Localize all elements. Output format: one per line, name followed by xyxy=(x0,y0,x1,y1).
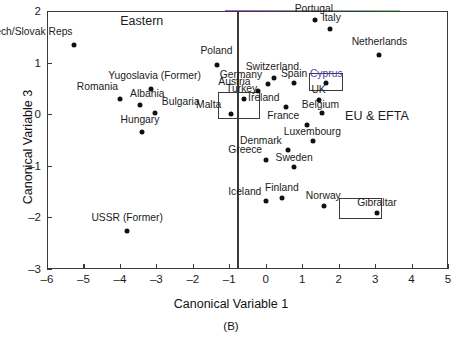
figure-caption: (B) xyxy=(223,320,238,332)
data-point-label: Czech/Slovak Reps xyxy=(0,27,73,37)
data-point-label: Bulgaria xyxy=(162,97,200,107)
data-point-marker xyxy=(264,198,269,203)
y-axis-title: Canonical Variable 3 xyxy=(21,67,35,227)
x-tick-label: –6 xyxy=(41,273,54,285)
data-point-label: Sweden xyxy=(276,153,313,163)
data-point-marker xyxy=(374,211,379,216)
data-point-marker xyxy=(311,139,316,144)
x-tick xyxy=(339,264,340,269)
data-point-marker xyxy=(271,76,276,81)
data-point-marker xyxy=(292,164,297,169)
x-tick-label: –3 xyxy=(150,273,163,285)
x-tick xyxy=(375,264,376,269)
canonical-variate-scatter-figure: –6–5–4–3–2–1012345 210–1–2–3 Czech/Slova… xyxy=(0,0,463,337)
data-point-marker xyxy=(319,111,324,116)
y-tick xyxy=(47,269,52,270)
x-tick-label: 3 xyxy=(372,273,378,285)
y-tick xyxy=(47,217,52,218)
data-point-label: Italy xyxy=(322,13,341,23)
data-point-marker xyxy=(125,229,130,234)
x-tick xyxy=(266,264,267,269)
x-tick xyxy=(120,264,121,269)
x-tick xyxy=(302,264,303,269)
data-point-label: Luxembourg xyxy=(284,127,341,137)
data-point-label: Hungary xyxy=(120,115,159,125)
data-point-marker xyxy=(327,26,332,31)
data-point-label: Ireland xyxy=(248,93,279,103)
data-point-marker xyxy=(139,130,144,135)
data-point-marker xyxy=(312,17,317,22)
x-tick-label: 0 xyxy=(263,273,269,285)
data-point-label: Greece xyxy=(228,145,262,155)
data-point-label: Yugoslavia (Former) xyxy=(108,71,201,81)
data-point-label: Netherlands xyxy=(352,37,408,47)
data-point-label: Poland xyxy=(200,46,232,56)
data-point-marker xyxy=(117,96,122,101)
data-point-label: USSR (Former) xyxy=(91,213,163,223)
y-tick xyxy=(47,114,52,115)
data-point-label: Cyprus xyxy=(310,69,343,79)
data-point-marker xyxy=(265,81,270,86)
data-point-label: Malta xyxy=(196,100,221,110)
y-tick-label: –3 xyxy=(17,263,41,275)
data-point-marker xyxy=(280,195,285,200)
y-tick xyxy=(47,11,52,12)
y-tick-label: 2 xyxy=(17,5,41,17)
x-tick-label: 5 xyxy=(445,273,451,285)
data-point-label: Spain xyxy=(281,69,307,79)
x-tick-label: –4 xyxy=(114,273,127,285)
data-point-label: Finland xyxy=(265,183,299,193)
x-tick-label: 4 xyxy=(408,273,414,285)
data-point-label: Belgium xyxy=(302,100,339,110)
x-tick xyxy=(83,264,84,269)
x-tick xyxy=(412,264,413,269)
y-tick xyxy=(47,166,52,167)
data-point-marker xyxy=(322,204,327,209)
data-point-marker xyxy=(229,112,234,117)
x-tick xyxy=(156,264,157,269)
x-axis-title: Canonical Variable 1 xyxy=(174,297,288,311)
region-label-eastern: Eastern xyxy=(120,14,163,28)
data-point-marker xyxy=(264,157,269,162)
x-tick xyxy=(229,264,230,269)
x-tick-label: –5 xyxy=(77,273,90,285)
data-point-label: Norway xyxy=(306,191,341,201)
x-tick-label: 2 xyxy=(335,273,341,285)
data-point-marker xyxy=(377,52,382,57)
x-tick xyxy=(193,264,194,269)
data-point-label: UK xyxy=(311,85,325,95)
y-tick xyxy=(47,63,52,64)
x-tick-label: 1 xyxy=(299,273,305,285)
data-point-marker xyxy=(72,42,77,47)
data-point-marker xyxy=(214,62,219,67)
data-point-marker xyxy=(137,103,142,108)
data-point-marker xyxy=(292,81,297,86)
data-point-label: France xyxy=(267,111,299,121)
data-point-label: Gibraltar xyxy=(357,198,396,208)
data-point-label: Albania xyxy=(130,89,164,99)
data-point-marker xyxy=(241,96,246,101)
x-tick-label: –2 xyxy=(186,273,199,285)
region-label-eu-efta: EU & EFTA xyxy=(345,109,409,123)
data-point-label: Romania xyxy=(77,82,118,92)
eastern-eu-divider xyxy=(237,11,238,269)
x-tick xyxy=(448,264,449,269)
data-point-label: Iceland xyxy=(228,187,261,197)
x-tick-label: –1 xyxy=(223,273,236,285)
